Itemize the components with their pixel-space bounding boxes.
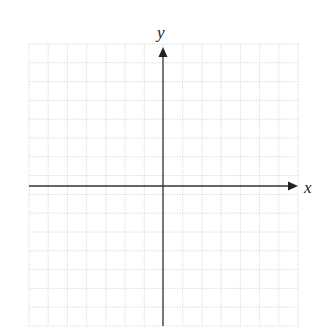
x-axis-label: x	[303, 178, 312, 197]
y-axis-label: y	[155, 23, 165, 42]
x-axis-arrow-icon	[288, 182, 298, 191]
y-axis-arrow-icon	[159, 47, 168, 57]
coordinate-plane: x y	[0, 0, 336, 332]
